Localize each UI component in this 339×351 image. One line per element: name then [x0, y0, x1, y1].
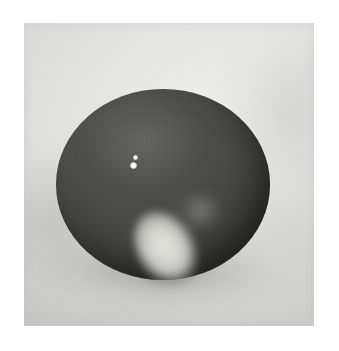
page-canvas	[0, 0, 339, 351]
specular-point-upper	[133, 155, 138, 160]
specular-point-lower	[130, 162, 137, 169]
photograph	[24, 23, 314, 326]
